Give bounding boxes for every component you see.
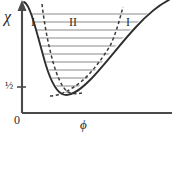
figure-container: χ ϕ 0 ½ I II I [0, 0, 172, 169]
y-axis-label: χ [4, 9, 11, 25]
chart-canvas [0, 0, 172, 169]
hatching-lines [23, 14, 172, 93]
x-axis-label: ϕ [80, 118, 87, 131]
region-label-left-i: I [31, 16, 35, 28]
region-label-right-i: I [126, 16, 130, 28]
y-axis-tick-label-half: ½ [5, 80, 13, 91]
origin-label: 0 [14, 114, 20, 126]
region-label-mid-ii: II [69, 16, 77, 28]
